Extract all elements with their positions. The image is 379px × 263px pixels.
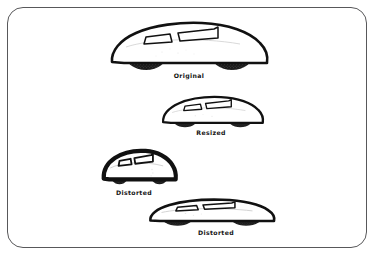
car-illustration-distorted-wide — [144, 196, 278, 229]
car-body-outline — [112, 23, 267, 63]
car-body-outline — [104, 151, 176, 180]
window-front — [176, 206, 198, 211]
window-front — [119, 159, 132, 166]
car-body-outline — [150, 200, 274, 221]
caption-distorted-tall: Distorted — [116, 189, 152, 196]
car-body-outline — [163, 97, 263, 123]
caption-original: Original — [174, 72, 204, 79]
caption-distorted-wide: Distorted — [198, 229, 234, 236]
car-illustration-original — [104, 16, 272, 78]
car-illustration-distorted-tall — [100, 146, 178, 190]
car-illustration-resized — [158, 92, 266, 133]
figure-plate: Original — [0, 0, 379, 263]
caption-resized: Resized — [196, 129, 225, 136]
